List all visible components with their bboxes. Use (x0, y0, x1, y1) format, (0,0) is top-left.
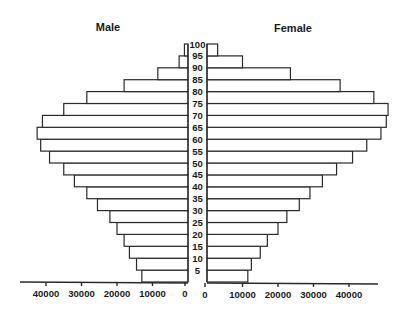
male-bar-55-60 (41, 139, 188, 151)
age-label: 50 (192, 158, 203, 169)
female-bar-25-30 (207, 211, 287, 223)
age-label: 15 (192, 241, 203, 252)
male-bar-75-80 (87, 92, 188, 104)
age-label: 90 (192, 62, 203, 73)
age-label: 25 (192, 217, 203, 228)
male-x-axis (20, 282, 188, 283)
age-label: 30 (192, 205, 203, 216)
male-bar-30-35 (97, 199, 188, 211)
age-label: 10 (192, 253, 203, 264)
male-bars (37, 44, 188, 282)
male-bar-0-5 (142, 270, 188, 282)
female-bar-90-95 (207, 56, 243, 68)
female-bar-15-20 (207, 234, 267, 246)
female-bar-75-80 (207, 92, 374, 104)
age-label: 75 (192, 98, 203, 109)
age-label: 5 (195, 265, 201, 276)
male-bar-80-85 (124, 80, 188, 92)
male-bar-60-65 (37, 127, 188, 139)
female-bar-70-75 (207, 104, 388, 116)
age-label: 45 (192, 169, 203, 180)
x-tick-label: 0 (202, 289, 207, 300)
female-bar-85-90 (207, 68, 290, 80)
age-axis-labels: 5101520253035404550556065707580859095100 (190, 39, 206, 276)
female-bar-50-55 (207, 151, 353, 163)
age-label: 60 (192, 134, 203, 145)
age-label: 55 (192, 146, 203, 157)
population-pyramid-chart: Male Female 5101520253035404550556065707… (0, 0, 408, 319)
female-x-axis-ticks: 010000200003000040000 (202, 283, 362, 300)
male-bar-20-25 (117, 223, 188, 235)
age-label: 40 (192, 181, 203, 192)
x-tick-label: 10000 (139, 288, 165, 299)
x-tick-label: 30000 (68, 288, 94, 299)
male-bar-25-30 (110, 211, 188, 223)
male-bar-40-45 (74, 175, 188, 187)
female-bar-0-5 (207, 270, 248, 282)
male-side-title: Male (96, 21, 120, 33)
female-x-axis (207, 283, 378, 284)
female-bar-80-85 (207, 80, 340, 92)
female-bar-55-60 (207, 139, 367, 151)
x-tick-label: 40000 (336, 289, 362, 300)
age-label: 70 (192, 110, 203, 121)
female-bar-30-35 (207, 199, 299, 211)
male-bar-70-75 (64, 104, 188, 116)
male-bar-35-40 (87, 187, 188, 199)
male-bar-50-55 (50, 151, 188, 163)
x-tick-label: 10000 (229, 289, 255, 300)
female-side-title: Female (274, 22, 312, 34)
x-tick-label: 40000 (33, 288, 59, 299)
age-label: 20 (192, 229, 203, 240)
age-label: 35 (192, 193, 203, 204)
age-label: 95 (192, 50, 203, 61)
x-tick-label: 20000 (265, 289, 291, 300)
male-bar-90-95 (179, 56, 188, 68)
female-bar-20-25 (207, 223, 278, 235)
female-bar-65-70 (207, 115, 386, 127)
female-bars (207, 44, 388, 282)
age-label: 65 (192, 122, 203, 133)
age-label: 80 (192, 86, 203, 97)
female-bar-60-65 (207, 127, 381, 139)
female-bar-35-40 (207, 187, 310, 199)
x-tick-label: 0 (182, 288, 187, 299)
x-tick-label: 30000 (300, 289, 326, 300)
female-bar-5-10 (207, 258, 251, 270)
male-bar-15-20 (124, 234, 188, 246)
male-bar-45-50 (64, 163, 188, 175)
male-bar-85-90 (158, 68, 188, 80)
female-bar-95-100 (207, 44, 218, 56)
female-bar-45-50 (207, 163, 337, 175)
male-bar-5-10 (137, 258, 188, 270)
female-bar-10-15 (207, 246, 260, 258)
age-label: 85 (192, 74, 203, 85)
male-bar-10-15 (129, 246, 188, 258)
age-label: 100 (190, 39, 206, 50)
female-bar-40-45 (207, 175, 322, 187)
male-bar-65-70 (42, 115, 188, 127)
male-x-axis-ticks: 400003000020000100000 (33, 282, 188, 299)
x-tick-label: 20000 (104, 288, 130, 299)
